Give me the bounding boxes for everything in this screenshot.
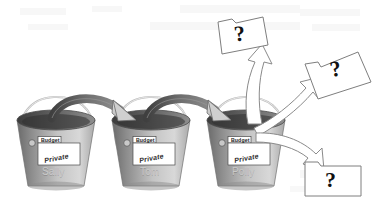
document-right[interactable] [305,52,371,99]
card-body [228,143,270,165]
bucket-handle-rivet [124,140,131,147]
diagram-svg [0,0,389,202]
bucket-handle-rivet [29,140,36,147]
document-bottom[interactable] [305,162,361,196]
card-body [38,143,80,165]
card-body [133,143,175,165]
bucket-base [123,182,179,191]
bucket-base [218,182,274,191]
card-tab [133,137,156,144]
bucket-base [28,182,84,191]
diagram-canvas: Budget Private Sally Budget Private Tom … [0,0,389,202]
card-tab [38,137,61,144]
card-tab [228,137,251,144]
bucket-handle-rivet [219,140,226,147]
